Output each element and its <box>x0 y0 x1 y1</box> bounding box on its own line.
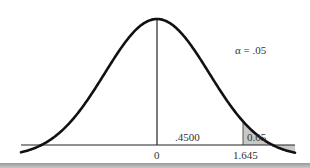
middle-area-label: .4500 <box>175 131 200 143</box>
bottom-border <box>0 163 310 168</box>
tail-area-label: 0.05 <box>247 131 266 143</box>
tick-label-zero: 0 <box>154 149 160 161</box>
alpha-label: α = .05 <box>235 44 266 56</box>
tick-label-critical: 1.645 <box>233 149 258 161</box>
